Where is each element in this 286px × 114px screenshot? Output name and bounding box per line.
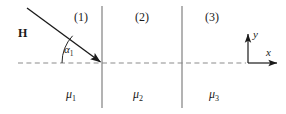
physics-diagram: H α1 (1) (2) (3) μ1 μ2 μ3 y x xyxy=(0,0,286,114)
angle-subscript: 1 xyxy=(70,49,74,58)
field-vector-label: H xyxy=(18,27,27,39)
x-axis-label: x xyxy=(266,47,271,58)
region-label-3: (3) xyxy=(205,11,219,23)
permeability-label-3: μ3 xyxy=(209,88,219,103)
mu-subscript-3: 3 xyxy=(215,94,219,103)
permeability-label-1: μ1 xyxy=(66,88,76,103)
incidence-angle-label: α1 xyxy=(64,44,74,58)
permeability-label-2: μ2 xyxy=(133,88,143,103)
region-label-1: (1) xyxy=(74,11,88,23)
mu-subscript-2: 2 xyxy=(139,94,143,103)
mu-subscript-1: 1 xyxy=(72,94,76,103)
y-axis-label: y xyxy=(253,29,258,40)
region-label-2: (2) xyxy=(135,11,149,23)
